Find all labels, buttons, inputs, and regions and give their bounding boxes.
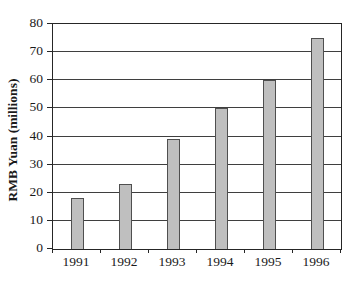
y-tick-label: 50 [13,100,43,114]
y-tick-label: 70 [13,44,43,58]
y-tick-label: 0 [13,241,43,255]
x-tick-mark [292,249,293,253]
x-tick-mark [52,249,53,253]
y-tick-mark [47,136,52,137]
gridline [53,192,341,193]
bar-1994 [215,108,228,249]
y-tick-label: 40 [13,129,43,143]
x-category-label: 1995 [244,254,292,269]
gridline [53,164,341,165]
bar-1992 [119,184,132,249]
y-tick-label: 30 [13,157,43,171]
y-tick-label: 20 [13,185,43,199]
y-tick-mark [47,220,52,221]
gridline [53,220,341,221]
x-tick-mark [340,249,341,253]
y-tick-mark [47,51,52,52]
bar-chart-figure: RMB Yuan (millions) 01020304050607080 19… [0,0,357,284]
x-category-label: 1994 [196,254,244,269]
x-category-label: 1993 [148,254,196,269]
gridline [53,136,341,137]
y-tick-mark [47,23,52,24]
x-category-label: 1992 [100,254,148,269]
y-tick-mark [47,192,52,193]
y-tick-label: 80 [13,16,43,30]
bar-1993 [167,139,180,249]
y-tick-label: 60 [13,72,43,86]
x-category-label: 1996 [292,254,340,269]
x-tick-mark [100,249,101,253]
y-tick-label: 10 [13,213,43,227]
y-tick-mark [47,107,52,108]
gridline [53,107,341,108]
bar-1996 [311,38,324,249]
y-tick-mark [47,164,52,165]
x-category-label: 1991 [52,254,100,269]
gridline [53,51,341,52]
gridline [53,79,341,80]
x-tick-mark [196,249,197,253]
bar-1991 [71,198,84,249]
y-tick-mark [47,79,52,80]
x-tick-mark [148,249,149,253]
x-tick-mark [244,249,245,253]
plot-area [52,23,342,250]
bar-1995 [263,80,276,249]
